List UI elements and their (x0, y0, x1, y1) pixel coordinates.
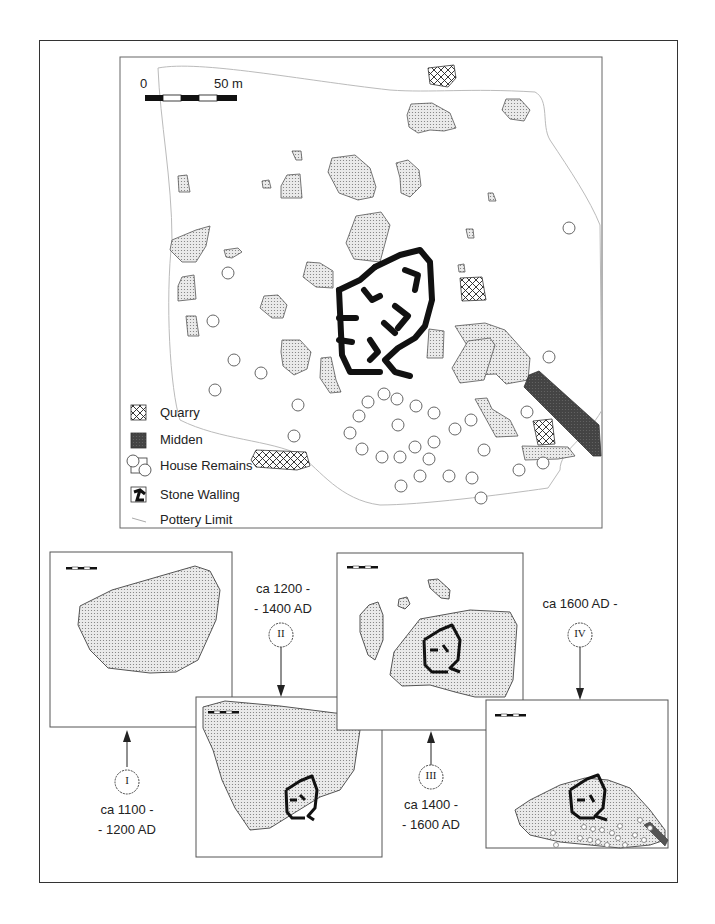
phase-2-date-end: - 1400 AD (233, 599, 333, 619)
phase-3-numeral: III (421, 769, 441, 781)
phase-3-date-start: ca 1400 - (381, 795, 481, 815)
phase-1-numeral: I (117, 774, 137, 786)
legend-quarry-label: Quarry (160, 405, 200, 420)
site-map-figure (0, 0, 715, 924)
phase-1-date-end: - 1200 AD (77, 820, 177, 840)
pottery-limit-line (158, 66, 602, 505)
phase-4-dates: ca 1600 AD - (530, 594, 630, 614)
scale-bar (145, 95, 237, 101)
legend-symbols (127, 405, 151, 522)
phase-2-dates: ca 1200 - - 1400 AD (233, 579, 333, 619)
phase-4-numeral: IV (570, 627, 590, 639)
phase-1-date-start: ca 1100 - (77, 800, 177, 820)
stone-walling (339, 250, 432, 376)
midden-area (524, 371, 601, 456)
phase-3-date-end: - 1600 AD (381, 815, 481, 835)
legend-pottery-limit-label: Pottery Limit (160, 512, 232, 527)
legend-midden-swatch (131, 433, 146, 448)
phase-1-dates: ca 1100 - - 1200 AD (77, 800, 177, 840)
legend-house-remains-label: House Remains (160, 458, 253, 473)
phase-2-date-start: ca 1200 - (233, 579, 333, 599)
legend-stone-swatch (131, 487, 146, 502)
legend-house-swatch (127, 455, 151, 476)
legend-stone-walling-label: Stone Walling (160, 487, 240, 502)
legend-pottery-line (132, 518, 146, 522)
phase-4-date-start: ca 1600 AD - (530, 594, 630, 614)
scale-end-label: 50 m (214, 76, 243, 91)
legend-quarry-swatch (131, 405, 146, 420)
phase-3-dates: ca 1400 - - 1600 AD (381, 795, 481, 835)
legend-midden-label: Midden (160, 432, 203, 447)
scale-start-label: 0 (140, 76, 147, 91)
phase-2-numeral: II (271, 627, 291, 639)
